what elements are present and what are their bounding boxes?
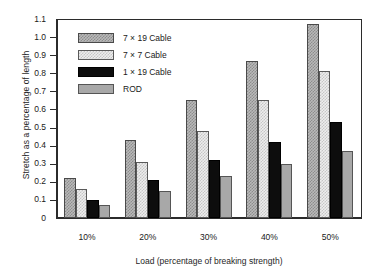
y-axis-tick-label: 0.4 bbox=[22, 141, 46, 150]
bar bbox=[64, 178, 76, 218]
legend-label: 7 × 7 Cable bbox=[123, 50, 167, 60]
bar bbox=[330, 122, 342, 218]
y-axis-tick-label: 0.9 bbox=[22, 51, 46, 60]
x-axis-title: Load (percentage of breaking strength) bbox=[56, 256, 362, 266]
bar bbox=[76, 189, 88, 218]
x-axis-tick-label-group: 10%20%30%40%50% bbox=[58, 232, 362, 246]
bar bbox=[246, 61, 258, 218]
x-axis-tick-label: 40% bbox=[249, 232, 289, 242]
legend-label: ROD bbox=[123, 84, 142, 94]
legend-swatch-icon bbox=[78, 50, 114, 60]
y-axis-tick-label: 0.7 bbox=[22, 87, 46, 96]
bar bbox=[342, 151, 354, 218]
legend-item: 7 × 7 Cable bbox=[78, 47, 198, 62]
y-axis-tick-label: 0.5 bbox=[22, 123, 46, 132]
x-axis-tick-label: 20% bbox=[128, 232, 168, 242]
y-axis-tick-label-group: 1.11.00.90.80.70.60.50.40.30.20.10 bbox=[22, 14, 46, 226]
bar bbox=[269, 142, 281, 218]
bar bbox=[258, 100, 270, 218]
bar bbox=[220, 176, 232, 218]
legend-label: 1 × 19 Cable bbox=[123, 67, 171, 77]
bar bbox=[99, 205, 111, 218]
legend-item: 1 × 19 Cable bbox=[78, 64, 198, 79]
x-axis-tick-label: 50% bbox=[310, 232, 350, 242]
legend-swatch-icon bbox=[78, 84, 114, 94]
y-axis-tick-label: 0.1 bbox=[22, 195, 46, 204]
bar bbox=[87, 200, 99, 218]
bar bbox=[186, 100, 198, 218]
y-axis-tick-label: 1.0 bbox=[22, 33, 46, 42]
bar bbox=[125, 140, 137, 218]
x-axis-tick-label: 30% bbox=[189, 232, 229, 242]
legend-label: 7 × 19 Cable bbox=[123, 33, 171, 43]
bar bbox=[319, 71, 331, 218]
bar bbox=[148, 180, 160, 218]
y-axis-tick-label: 0.6 bbox=[22, 105, 46, 114]
bar-chart: Stretch as a percentage of length 1.11.0… bbox=[0, 0, 374, 279]
bar bbox=[209, 160, 221, 218]
legend-swatch-icon bbox=[78, 67, 114, 77]
legend-item: ROD bbox=[78, 81, 198, 96]
y-axis-tick-label: 0.2 bbox=[22, 177, 46, 186]
y-axis-tick-label: 0 bbox=[22, 214, 46, 223]
bar bbox=[197, 131, 209, 218]
y-axis-tick-label: 0.3 bbox=[22, 159, 46, 168]
y-axis-tick-label: 1.1 bbox=[22, 15, 46, 24]
legend: 7 × 19 Cable7 × 7 Cable1 × 19 CableROD bbox=[78, 30, 198, 98]
bar bbox=[136, 162, 148, 218]
legend-swatch-icon bbox=[78, 33, 114, 43]
bar bbox=[159, 191, 171, 218]
bar bbox=[307, 24, 319, 218]
bar bbox=[281, 164, 293, 218]
legend-item: 7 × 19 Cable bbox=[78, 30, 198, 45]
x-axis-tick-label: 10% bbox=[67, 232, 107, 242]
y-axis-tick-label: 0.8 bbox=[22, 69, 46, 78]
